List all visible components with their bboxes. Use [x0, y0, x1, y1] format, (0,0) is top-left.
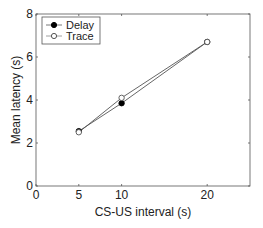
y-tick-label: 2	[26, 136, 33, 150]
trace-data-point	[76, 130, 81, 135]
trace-marker-icon	[51, 33, 56, 38]
x-tick-label: 20	[201, 188, 215, 202]
x-tick-label: 5	[75, 188, 82, 202]
x-axis-label: CS-US interval (s)	[95, 205, 192, 219]
x-tick-label: 10	[115, 188, 129, 202]
trace-data-point	[205, 39, 210, 44]
y-tick-label: 8	[26, 7, 33, 21]
trace-data-point	[119, 95, 124, 100]
y-tick-label: 4	[26, 93, 33, 107]
x-tick-label: 0	[33, 188, 40, 202]
line-chart: 05102002468 Delay Trace CS-US interval (…	[0, 0, 263, 228]
delay-data-point	[119, 101, 124, 106]
y-tick-label: 6	[26, 50, 33, 64]
delay-marker-icon	[51, 22, 56, 27]
y-tick-label: 0	[26, 179, 33, 193]
legend-trace-label: Trace	[66, 30, 94, 42]
y-axis-label: Mean latency (s)	[9, 56, 23, 145]
legend: Delay Trace	[42, 17, 100, 44]
